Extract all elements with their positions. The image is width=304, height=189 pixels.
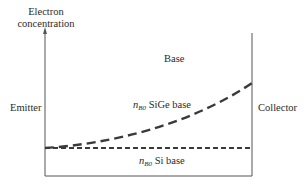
base-region-label: Base: [164, 53, 184, 65]
sige-curve-label: nB0 SiGe base: [133, 99, 191, 114]
y-axis-label-line1: Electron: [0, 6, 92, 18]
sige-sub: B0: [138, 104, 146, 112]
collector-region-label: Collector: [258, 102, 297, 114]
si-curve-label: nB0 Si base: [139, 155, 185, 170]
si-sub: B0: [144, 160, 152, 168]
sige-text: SiGe base: [149, 99, 191, 110]
emitter-region-label: Emitter: [10, 102, 42, 114]
sige-base-curve: [45, 83, 252, 148]
y-axis-label: Electron concentration: [0, 6, 92, 30]
si-text: Si base: [155, 155, 185, 166]
y-axis-label-line2: concentration: [0, 18, 92, 30]
